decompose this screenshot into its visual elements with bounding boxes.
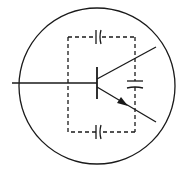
parasitic-box <box>68 37 135 132</box>
capacitor-bottom <box>96 125 101 139</box>
transistor-diagram <box>0 0 185 173</box>
capacitor-top <box>96 30 101 44</box>
capacitor-right <box>127 81 143 88</box>
emitter-arrow-icon <box>117 97 128 106</box>
collector-lead <box>97 47 156 79</box>
